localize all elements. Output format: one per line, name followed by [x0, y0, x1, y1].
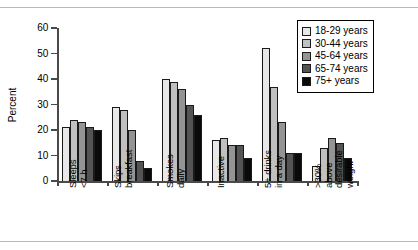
bar [286, 153, 294, 181]
group-separator-tick [107, 181, 109, 186]
legend-label: 45-64 years [315, 51, 368, 61]
y-tick-20: 20 [37, 125, 57, 135]
y-tick-label: 0 [43, 176, 48, 186]
bar [186, 105, 194, 182]
x-category-5: 5+ drinks in a day [257, 188, 307, 250]
group-separator-tick [357, 181, 359, 186]
legend-label: 30-44 years [315, 39, 368, 49]
y-tick-label: 60 [37, 23, 48, 33]
bar [144, 168, 152, 181]
legend-item: 75+ years [302, 75, 368, 88]
group-separator-tick [307, 181, 309, 186]
y-axis-title: Percent [7, 88, 18, 122]
bar [236, 145, 244, 181]
bar [194, 115, 202, 181]
y-tick-40: 40 [37, 74, 57, 84]
x-category-label: Sleeps <7 h [68, 160, 89, 188]
group-separator-tick [257, 181, 259, 186]
y-tick-label: 50 [37, 49, 48, 59]
x-category-label: 5+ drinks in a day [263, 150, 284, 188]
bar [228, 145, 236, 181]
x-category-label: Smokes daily [165, 154, 186, 188]
legend-item: 45-64 years [302, 50, 368, 63]
y-tick-50: 50 [37, 49, 57, 59]
x-category-4: Inactive [207, 188, 257, 250]
x-category-6: >30% above desirable weight [307, 188, 357, 250]
x-category-2: Skips breakfast [107, 188, 157, 250]
y-tick-label: 10 [37, 151, 48, 161]
legend-swatch [302, 77, 311, 86]
y-tick-30: 30 [37, 100, 57, 110]
legend-item: 18-29 years [302, 25, 368, 38]
group-separator-tick [57, 181, 59, 186]
x-category-label: Inactive [216, 156, 227, 188]
bar [244, 158, 252, 181]
legend-label: 65-74 years [315, 64, 368, 74]
legend: 18-29 years30-44 years45-64 years65-74 y… [297, 20, 374, 93]
chart-figure: Percent 0102030405060 Sleeps <7 hSkips b… [0, 0, 418, 250]
bar [94, 130, 102, 181]
figure-top-rule [0, 7, 418, 8]
bar [294, 153, 302, 181]
x-axis-labels: Sleeps <7 hSkips breakfastSmokes dailyIn… [57, 188, 357, 250]
legend-swatch [302, 64, 311, 73]
y-tick-10: 10 [37, 151, 57, 161]
y-tick-60: 60 [37, 23, 57, 33]
legend-label: 75+ years [315, 76, 359, 86]
y-tick-0: 0 [43, 176, 57, 186]
legend-swatch [302, 39, 311, 48]
legend-label: 18-29 years [315, 26, 368, 36]
x-category-label: >30% above desirable weight [313, 150, 355, 188]
legend-swatch [302, 52, 311, 61]
legend-swatch [302, 27, 311, 36]
y-tick-label: 20 [37, 125, 48, 135]
legend-item: 30-44 years [302, 38, 368, 51]
x-category-3: Smokes daily [157, 188, 207, 250]
legend-item: 65-74 years [302, 63, 368, 76]
x-category-label: Skips breakfast [113, 150, 134, 188]
group-separator-tick [157, 181, 159, 186]
bar-group [57, 28, 107, 181]
group-separator-tick [207, 181, 209, 186]
y-tick-label: 30 [37, 100, 48, 110]
bar [136, 161, 144, 181]
x-category-1: Sleeps <7 h [57, 188, 107, 250]
y-tick-label: 40 [37, 74, 48, 84]
